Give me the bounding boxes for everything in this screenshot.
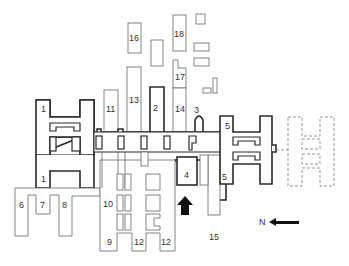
label-9: 9: [107, 237, 112, 247]
label-12a: 12: [134, 237, 144, 247]
label-16: 16: [129, 33, 139, 43]
label-14: 14: [175, 104, 185, 114]
corridor-window-3: [141, 136, 147, 149]
building-small-d: [203, 88, 211, 93]
building-15: [208, 155, 220, 215]
building-unlabeled-a: [151, 40, 163, 66]
building-3: [195, 116, 203, 132]
north-arrow-icon: [269, 218, 299, 226]
building-small-b: [194, 43, 209, 51]
corridor-window-4: [164, 136, 170, 149]
label-1b: 1: [41, 174, 46, 184]
label-7: 7: [40, 200, 45, 210]
bay-g: [141, 152, 148, 166]
label-15: 15: [209, 232, 219, 242]
entrance-arrow-icon: [177, 196, 193, 215]
block-5-stub: [272, 145, 276, 152]
bay-c2: [125, 214, 131, 230]
connector-15: [200, 155, 208, 185]
label-5a: 5: [225, 121, 230, 131]
bay-d: [146, 174, 160, 190]
building-small-a: [196, 14, 205, 24]
label-13: 13: [129, 95, 139, 105]
planned-building: [288, 117, 334, 186]
label-5b: 5: [222, 172, 227, 182]
floor-plan-diagram: 1 1 2 3 4 5 5 6 7 8 9 10 11 12 12 13 14 …: [0, 0, 349, 266]
label-4: 4: [184, 170, 189, 180]
bay-e: [146, 195, 160, 211]
planned-insert-a: [302, 139, 320, 149]
label-17: 17: [175, 72, 185, 82]
building-small-c: [194, 58, 209, 66]
building-small-e: [213, 78, 217, 93]
label-1a: 1: [41, 104, 46, 114]
label-3: 3: [194, 105, 199, 115]
compass-label: N: [259, 217, 266, 227]
label-11: 11: [106, 104, 115, 114]
corridor-window-1: [96, 136, 102, 149]
label-10: 10: [103, 199, 113, 209]
label-12b: 12: [161, 237, 171, 247]
corridor-window-2: [118, 136, 124, 149]
bay-a1: [117, 174, 123, 190]
label-18: 18: [174, 29, 184, 39]
label-6: 6: [19, 200, 24, 210]
label-2: 2: [153, 103, 158, 113]
label-8: 8: [62, 200, 67, 210]
bay-c1: [117, 214, 123, 230]
bay-a2: [125, 174, 131, 190]
buildings-6-7-8: [15, 188, 100, 236]
bay-b2: [125, 195, 131, 211]
planned-insert-b: [302, 154, 320, 164]
bay-b1: [117, 195, 123, 211]
block-1-window-b: [72, 137, 80, 151]
block-1-window-a: [50, 137, 56, 151]
